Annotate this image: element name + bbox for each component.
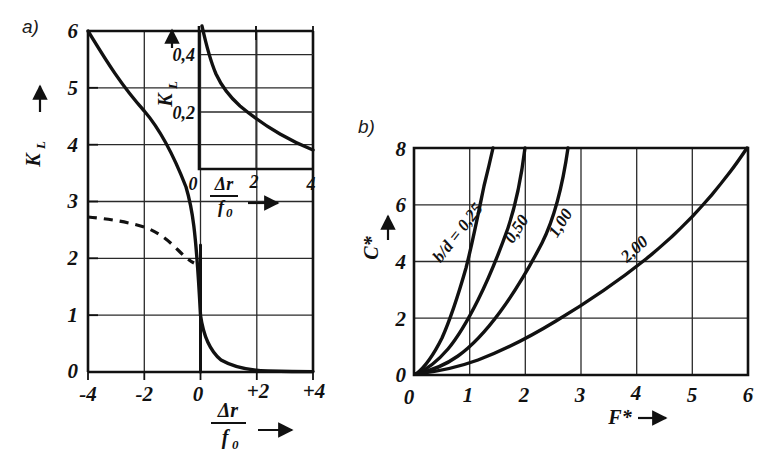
panel-a-tag: a): [22, 16, 39, 37]
panel-a-xlabel-group: Δr f 0: [211, 399, 292, 452]
panel-a-y-ticks: [88, 88, 98, 315]
panel-b-ytick-4: 4: [395, 250, 407, 274]
figure-container: a): [0, 0, 781, 471]
panel-b-xlabel: F*: [607, 406, 632, 428]
panel-a-inset: 0,4 0,2 0 2 4 K L Δr f 0: [154, 26, 316, 220]
inset-grid: [199, 26, 313, 169]
panel-b-ytick-2: 2: [395, 307, 407, 331]
panel-a-xlabel-den: f: [222, 426, 231, 449]
panel-a-ylabel: K: [22, 152, 44, 168]
panel-a-xlabel-num: Δr: [217, 399, 239, 421]
curve-kl-dashed: [88, 217, 194, 263]
panel-b-xtick-5: 5: [687, 383, 698, 407]
panel-a-ytick-5: 5: [68, 76, 79, 100]
panel-b-ytick-0: 0: [396, 363, 407, 387]
inset-xlabel-group: Δr f 0: [210, 174, 278, 220]
panel-a-ylabel-sub: L: [33, 141, 48, 150]
inset-xlabel-den: f: [218, 197, 226, 217]
curve-label-050-group: 0,50: [500, 211, 533, 247]
inset-xlabel-den-sub: 0: [226, 205, 233, 220]
panel-b-xtick-6: 6: [743, 383, 754, 407]
inset-ytick-04: 0,4: [173, 45, 196, 65]
panel-b-ytick-8: 8: [396, 137, 407, 161]
panel-b-ylabel: C*: [360, 235, 382, 259]
panel-a-ylabel-group: K L: [22, 86, 48, 168]
curve-label-025-group: b/d = 0,25: [429, 199, 487, 266]
inset-xlabel-num: Δr: [214, 174, 234, 194]
inset-xtick-2: 2: [249, 172, 259, 192]
inset-ylabel: K: [154, 92, 176, 108]
panel-a: a): [22, 16, 325, 452]
panel-b-xlabel-group: F*: [607, 406, 666, 428]
panel-a-ytick-1: 1: [68, 303, 79, 327]
curve-label-050: 0,50: [500, 211, 533, 247]
inset-xtick-4: 4: [306, 174, 316, 194]
panel-b: b) b/d = 0,25 0,50 1,00: [358, 116, 754, 428]
panel-b-xtick-3: 3: [574, 383, 586, 407]
panel-a-ytick-6: 6: [68, 19, 79, 43]
panel-b-xtick-0: 0: [404, 385, 415, 409]
inset-xtick-0: 0: [189, 174, 198, 194]
panel-a-xtick-p2: +2: [247, 379, 270, 403]
panel-a-ytick-4: 4: [67, 133, 79, 157]
panel-a-xtick-m4: -4: [79, 382, 97, 406]
curve-label-025: b/d = 0,25: [429, 199, 487, 266]
panel-b-tag: b): [358, 116, 375, 137]
panel-b-ylabel-group: C*: [360, 216, 388, 260]
panel-a-ytick-2: 2: [67, 246, 79, 270]
panel-b-ytick-6: 6: [396, 193, 407, 217]
panel-a-xtick-p4: +4: [303, 379, 325, 403]
inset-ylabel-group: K L: [154, 30, 180, 108]
panel-b-xtick-4: 4: [630, 381, 642, 405]
curve-label-100: 1,00: [544, 205, 576, 241]
panel-a-xtick-m2: -2: [136, 382, 154, 406]
panel-b-xtick-1: 1: [463, 383, 474, 407]
panel-b-xtick-2: 2: [518, 383, 530, 407]
panel-a-xlabel-den-sub: 0: [232, 437, 239, 452]
panel-a-ytick-3: 3: [67, 189, 79, 213]
inset-ylabel-sub: L: [165, 81, 180, 90]
panel-a-xtick-0: 0: [193, 382, 204, 406]
curve-label-100-group: 1,00: [544, 205, 576, 241]
panel-b-grid: [414, 148, 748, 375]
technical-figure: a): [0, 0, 781, 471]
panel-a-ytick-0: 0: [68, 359, 79, 383]
